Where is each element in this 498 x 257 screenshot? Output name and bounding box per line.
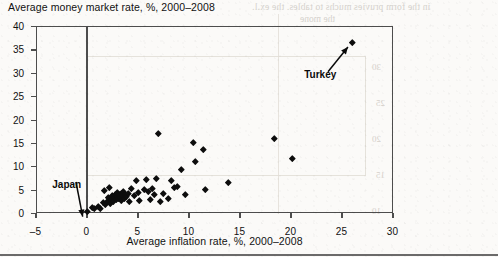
bleed-through-text-line-2: the mone — [300, 14, 335, 24]
y-tick-label: 15 — [13, 137, 24, 148]
x-axis-title: Average inflation rate, %, 2000–2008 — [36, 235, 393, 247]
y-tick-label: 20 — [13, 114, 24, 125]
x-tick: 10 — [188, 213, 189, 218]
y-tick: 10 — [31, 166, 36, 167]
y-tick: 15 — [31, 143, 36, 144]
x-tick: 5 — [137, 213, 138, 218]
y-tick: 40 — [31, 26, 36, 27]
scanned-chart-page: in the form pruvies muchs to tables. the… — [0, 0, 498, 257]
y-tick: 35 — [31, 49, 36, 50]
y-tick: 5 — [31, 190, 36, 191]
y-tick-label: 10 — [13, 161, 24, 172]
y-tick-label: 0 — [18, 208, 24, 219]
annotation-arrow-turkey — [290, 28, 366, 89]
x-tick: –5 — [35, 213, 36, 218]
y-tick: 30 — [31, 73, 36, 74]
y-tick-label: 35 — [13, 44, 24, 55]
y-tick: 25 — [31, 96, 36, 97]
x-tick: 15 — [239, 213, 240, 218]
chart-title: Average money market rate, %, 2000–2008 — [8, 1, 215, 13]
x-tick: 25 — [341, 213, 342, 218]
bleed-through-text-line-1: in the form pruvies muchs to tables. the… — [252, 2, 430, 12]
y-tick-label: 25 — [13, 91, 24, 102]
x-tick: 30 — [392, 213, 393, 218]
y-tick-label: 30 — [13, 67, 24, 78]
y-tick-label: 5 — [18, 184, 24, 195]
y-tick-label: 40 — [13, 21, 24, 32]
plot-area: 0510152025303540 –5051015202530 JapanTur… — [36, 26, 393, 213]
page-bottom-rule — [0, 254, 498, 256]
x-tick: 20 — [290, 213, 291, 218]
y-tick: 20 — [31, 120, 36, 121]
annotation-arrow-japan — [38, 171, 101, 226]
